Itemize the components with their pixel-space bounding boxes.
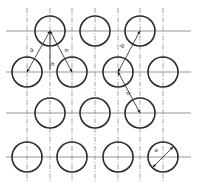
diameter-symbol-label: ø	[154, 146, 158, 153]
dimension-label-pitch-vertical: a	[48, 62, 56, 66]
dimension-label-pitch-upper-right: b	[118, 42, 127, 49]
dimension-label-pitch-diagonal-left: a	[27, 46, 36, 53]
dimension-group-left-triangle: a a a	[27, 31, 72, 72]
hole-pattern-drawing: a a a b a ø	[0, 0, 197, 190]
dimension-label-pitch-lower-right: a	[124, 90, 133, 97]
technical-drawing-canvas: a a a b a ø	[0, 0, 197, 190]
dimension-line-pitch-upper-right	[118, 31, 140, 72]
vertical-centerlines	[27, 8, 163, 182]
dimension-label-pitch-diagonal-right: a	[62, 47, 71, 54]
